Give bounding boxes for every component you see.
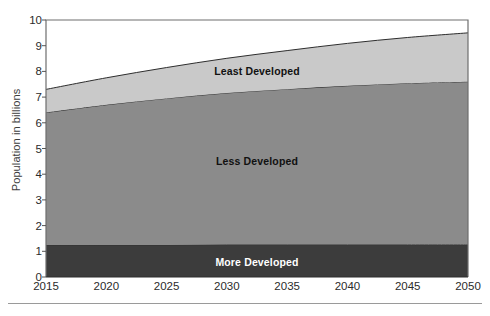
footer-divider	[8, 303, 482, 304]
x-tick-2045: 2045	[378, 280, 438, 292]
population-projection-chart: Population in billions 012345678910 2015…	[0, 0, 490, 316]
series-label-more-developed: More Developed	[215, 256, 298, 268]
x-tick-2040: 2040	[317, 280, 377, 292]
x-tick-2030: 2030	[197, 280, 257, 292]
x-tick-2020: 2020	[76, 280, 136, 292]
x-tick-2050: 2050	[438, 280, 490, 292]
x-tick-2015: 2015	[16, 280, 76, 292]
x-tick-2025: 2025	[137, 280, 197, 292]
series-label-least-developed: Least Developed	[214, 65, 300, 77]
series-label-less-developed: Less Developed	[216, 155, 298, 167]
x-tick-2035: 2035	[257, 280, 317, 292]
